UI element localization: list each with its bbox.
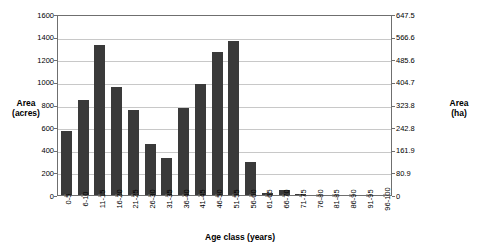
x-axis-tick-label: 66-70: [283, 189, 291, 208]
y-axis-right-tick-label: 80.9: [396, 169, 430, 178]
x-axis-tick-label: 76-80: [317, 189, 325, 208]
y-axis-left-tick-label: 600: [24, 124, 54, 133]
x-axis-tick: 51-55: [225, 197, 242, 231]
x-axis-tick: 86-90: [342, 197, 359, 231]
y-axis-right-tick-label: 0: [396, 192, 430, 201]
y-axis-right-tick-label: 404.7: [396, 78, 430, 87]
x-axis-tick: 66-70: [275, 197, 292, 231]
bar: [111, 87, 122, 195]
y-axis-left-tick-label: 1000: [24, 78, 54, 87]
x-axis-tick-label: 61-65: [266, 189, 274, 208]
bar: [212, 52, 223, 195]
bar: [228, 41, 239, 195]
y-axis-right-tick-label: 242.8: [396, 124, 430, 133]
x-axis-tick: 11-15: [91, 197, 108, 231]
y-axis-left-tick-label: 0: [24, 192, 54, 201]
y-axis-right-tick-label: 647.5: [396, 11, 430, 20]
x-axis-tick: 91-95: [359, 197, 376, 231]
plot-area: [57, 15, 392, 196]
x-axis-tick: 41-45: [191, 197, 208, 231]
x-axis-tick: 56-60: [241, 197, 258, 231]
x-axis-tick: 6-10: [74, 197, 91, 231]
bar: [195, 84, 206, 195]
x-axis-tick-label: 81-85: [333, 189, 341, 208]
x-axis-tick: 61-65: [258, 197, 275, 231]
x-axis-tick: 81-85: [325, 197, 342, 231]
x-axis-tick: 46-50: [208, 197, 225, 231]
bar: [178, 108, 189, 195]
x-axis-tick: 96-100: [375, 197, 392, 231]
y-axis-left-ticks: 02004006008001000120014001600: [22, 0, 54, 196]
bar: [94, 45, 105, 195]
x-axis-tick-label: 41-45: [199, 189, 207, 208]
x-axis-tick-label: 0-5: [65, 194, 73, 205]
y-axis-tick-mark: [392, 196, 395, 197]
y-axis-right-tick-label: 566.6: [396, 33, 430, 42]
x-axis-tick-label: 96-100: [384, 187, 392, 210]
x-axis-tick: 26-30: [141, 197, 158, 231]
y-axis-tick-mark: [392, 83, 395, 84]
y-axis-tick-mark: [392, 173, 395, 174]
y-axis-left-tick-label: 1600: [24, 11, 54, 20]
y-axis-tick-mark: [392, 151, 395, 152]
y-axis-right-ticks: 080.9161.9242.8323.8404.7485.6566.6647.5: [396, 0, 436, 196]
y-axis-tick-mark: [392, 60, 395, 61]
y-axis-right-tick-label: 485.6: [396, 56, 430, 65]
x-axis-tick-label: 71-75: [300, 189, 308, 208]
y-axis-left-tick-label: 400: [24, 146, 54, 155]
x-axis-tick-label: 31-35: [166, 189, 174, 208]
x-axis-tick-label: 91-95: [367, 189, 375, 208]
y-axis-tick-mark: [392, 15, 395, 16]
y-axis-left-tick-label: 1400: [24, 33, 54, 42]
y-axis-right-tick-label: 161.9: [396, 146, 430, 155]
x-axis-tick-label: 26-30: [149, 189, 157, 208]
x-axis-tick: 31-35: [158, 197, 175, 231]
bar-series: [58, 16, 391, 195]
x-axis-tick: 16-20: [107, 197, 124, 231]
y-axis-tick-mark: [392, 128, 395, 129]
y-axis-right-tick-label: 323.8: [396, 101, 430, 110]
bar: [145, 144, 156, 195]
x-axis-ticks: 0-56-1011-1516-2021-2526-3031-3536-4041-…: [57, 197, 392, 231]
x-axis-tick: 36-40: [174, 197, 191, 231]
x-axis-tick-label: 46-50: [216, 189, 224, 208]
x-axis-tick-label: 21-25: [132, 189, 140, 208]
x-axis-tick: 21-25: [124, 197, 141, 231]
y-axis-left-tick-label: 200: [24, 169, 54, 178]
bar: [78, 100, 89, 195]
x-axis-tick-label: 51-55: [233, 189, 241, 208]
x-axis-tick: 71-75: [292, 197, 309, 231]
x-axis-tick: 76-80: [308, 197, 325, 231]
x-axis-tick-label: 86-90: [350, 189, 358, 208]
x-axis-tick-label: 36-40: [183, 189, 191, 208]
bar: [128, 110, 139, 195]
y-axis-left-tick-label: 800: [24, 101, 54, 110]
x-axis-title: Age class (years): [150, 232, 330, 242]
y-axis-right-title: Area (ha): [440, 98, 478, 118]
y-axis-tick-mark: [392, 38, 395, 39]
bar: [61, 131, 72, 195]
y-axis-tick-mark: [392, 106, 395, 107]
x-axis-tick-label: 6-10: [82, 191, 90, 206]
x-axis-tick-label: 16-20: [116, 189, 124, 208]
bar-chart: Area (acres) Area (ha) 02004006008001000…: [0, 0, 479, 250]
y-axis-left-tick-label: 1200: [24, 56, 54, 65]
x-axis-tick-label: 56-60: [250, 189, 258, 208]
x-axis-tick: 0-5: [57, 197, 74, 231]
x-axis-tick-label: 11-15: [99, 190, 107, 209]
